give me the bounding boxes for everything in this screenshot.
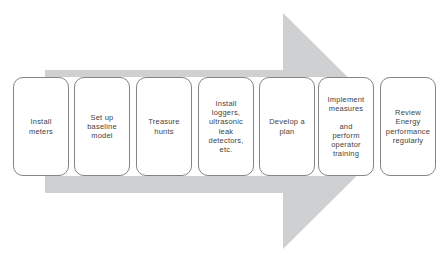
step-line: etc. bbox=[199, 145, 253, 154]
step-line: performance bbox=[381, 127, 435, 136]
step-label: Implementmeasures andperformoperatortrai… bbox=[319, 95, 373, 159]
step-label: ReviewEnergyperformanceregularly bbox=[381, 108, 435, 145]
process-diagram: InstallmetersSet upbaselinemodelTreasure… bbox=[0, 0, 447, 262]
step-line: measures bbox=[319, 104, 373, 113]
step-label: Develop aplan bbox=[260, 117, 314, 135]
step-box-7: ReviewEnergyperformanceregularly bbox=[380, 77, 436, 176]
step-line: Set up bbox=[75, 113, 129, 122]
step-label: Set upbaselinemodel bbox=[75, 113, 129, 140]
step-line: Energy bbox=[381, 117, 435, 126]
step-line: Install bbox=[14, 117, 68, 126]
step-line bbox=[319, 113, 373, 122]
step-line: and bbox=[319, 122, 373, 131]
step-line: regularly bbox=[381, 136, 435, 145]
step-line: Develop a bbox=[260, 117, 314, 126]
step-label: Installloggers,ultrasonicleakdetectors,e… bbox=[199, 99, 253, 154]
step-line: Install bbox=[199, 99, 253, 108]
step-label: Installmeters bbox=[14, 117, 68, 135]
step-line: detectors, bbox=[199, 136, 253, 145]
step-line: Review bbox=[381, 108, 435, 117]
step-line: training bbox=[319, 149, 373, 158]
step-line: ultrasonic bbox=[199, 117, 253, 126]
step-line: Treasure bbox=[137, 117, 191, 126]
step-line: perform bbox=[319, 131, 373, 140]
step-box-2: Set upbaselinemodel bbox=[74, 77, 130, 176]
step-line: baseline bbox=[75, 122, 129, 131]
step-box-4: Installloggers,ultrasonicleakdetectors,e… bbox=[198, 77, 254, 176]
step-line: hunts bbox=[137, 127, 191, 136]
step-box-6: Implementmeasures andperformoperatortrai… bbox=[318, 77, 374, 176]
step-line: operator bbox=[319, 140, 373, 149]
step-line: meters bbox=[14, 127, 68, 136]
step-line: plan bbox=[260, 127, 314, 136]
steps-row: InstallmetersSet upbaselinemodelTreasure… bbox=[0, 0, 447, 262]
step-box-1: Installmeters bbox=[13, 77, 69, 176]
step-box-5: Develop aplan bbox=[259, 77, 315, 176]
step-label: Treasurehunts bbox=[137, 117, 191, 135]
step-line: leak bbox=[199, 127, 253, 136]
step-line: Implement bbox=[319, 95, 373, 104]
step-box-3: Treasurehunts bbox=[136, 77, 192, 176]
step-line: model bbox=[75, 131, 129, 140]
step-line: loggers, bbox=[199, 108, 253, 117]
